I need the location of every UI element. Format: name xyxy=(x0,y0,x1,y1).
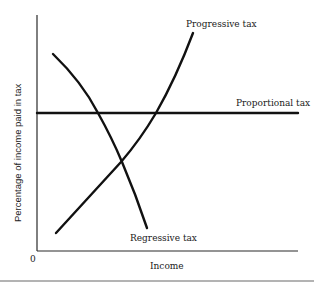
regressive-tax-label: Regressive tax xyxy=(130,233,197,243)
regressive-tax-curve xyxy=(53,54,147,228)
progressive-tax-label: Progressive tax xyxy=(186,19,257,29)
progressive-tax-curve xyxy=(56,33,193,233)
proportional-tax-label: Proportional tax xyxy=(236,98,310,108)
tax-curves-chart: Progressive tax Proportional tax Regress… xyxy=(0,0,314,283)
y-axis-label: Percentage of income paid in tax xyxy=(12,83,23,222)
origin-label: 0 xyxy=(30,254,36,264)
x-axis-label: Income xyxy=(150,261,184,271)
